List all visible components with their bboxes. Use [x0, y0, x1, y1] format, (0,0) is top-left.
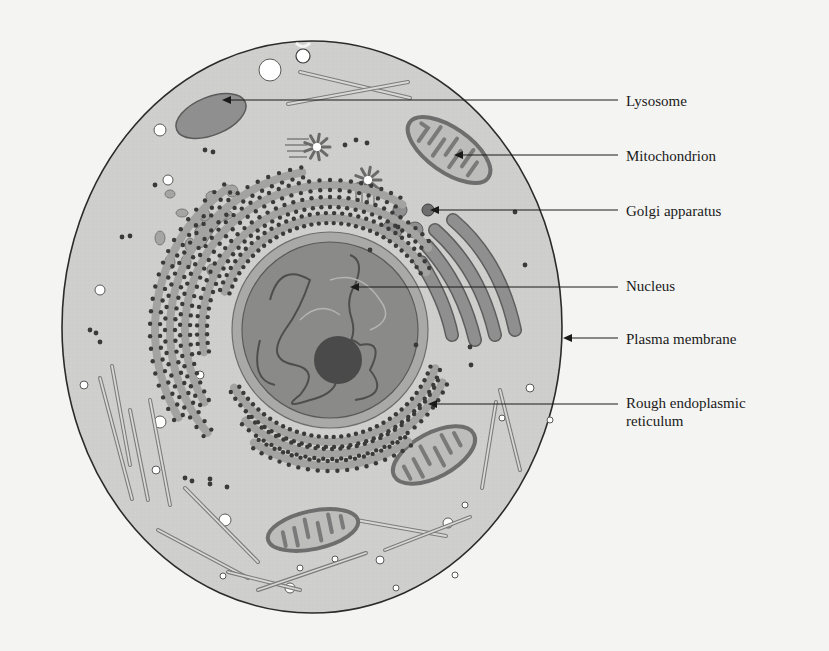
vesicle [526, 384, 534, 392]
ribosome [208, 477, 213, 482]
vesicle [376, 556, 384, 564]
ribosome [354, 138, 359, 143]
ribosome [128, 234, 133, 239]
label-rough-endoplasmic-reticulum: Rough endoplasmic reticulum [626, 394, 806, 430]
vesicle [220, 573, 226, 579]
label-mitochondrion: Mitochondrion [626, 147, 716, 165]
ribosome [368, 248, 373, 253]
vesicle [393, 585, 399, 591]
nucleolus [314, 336, 362, 384]
label-nucleus: Nucleus [626, 277, 675, 295]
cell-diagram [0, 0, 829, 651]
vesicle [452, 572, 458, 578]
endocytic-vesicle [296, 49, 310, 63]
ribosome [208, 482, 213, 487]
vesicle [152, 466, 160, 474]
smooth-er-vesicle [176, 209, 188, 217]
ribosome [203, 148, 208, 153]
vesicle [259, 59, 281, 81]
vesicle [462, 502, 468, 508]
label-golgi-apparatus: Golgi apparatus [626, 202, 721, 220]
vesicle [80, 381, 88, 389]
nucleus [232, 232, 428, 428]
ribosome [120, 235, 125, 240]
ribosome [396, 225, 401, 230]
label-lysosome: Lysosome [626, 92, 687, 110]
vesicle [547, 417, 553, 423]
ribosome [190, 479, 195, 484]
ribosome [98, 340, 103, 345]
ribosome [88, 328, 93, 333]
smooth-er-vesicle [155, 231, 165, 245]
ribosome [225, 485, 230, 490]
smooth-er-vesicle [165, 190, 175, 198]
ribosome [183, 476, 188, 481]
ribosome [523, 263, 528, 268]
vesicle [154, 124, 166, 136]
ribosome [211, 150, 216, 155]
vesicle [499, 415, 505, 421]
arrowhead-icon [563, 334, 572, 342]
ribosome [468, 345, 473, 350]
ribosome [153, 183, 158, 188]
ribosome [343, 143, 348, 148]
ribosome [365, 141, 370, 146]
label-plasma-membrane: Plasma membrane [626, 330, 736, 348]
ribosome [414, 343, 419, 348]
vesicle [95, 285, 105, 295]
vesicle [297, 565, 303, 571]
ribosome [94, 331, 99, 336]
vesicle [163, 175, 173, 185]
ribosome [469, 363, 474, 368]
